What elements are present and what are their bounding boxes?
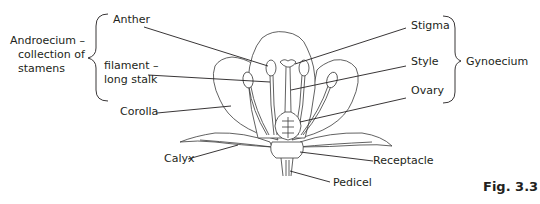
figure-caption: Fig. 3.3 [483, 179, 538, 194]
pedicel [281, 158, 293, 176]
gynoecium-label: Gynoecium [466, 55, 528, 69]
leader-receptacle [300, 152, 373, 161]
ovary-label: Ovary [411, 84, 444, 98]
flower-diagram [0, 0, 540, 204]
anther-label: Anther [113, 13, 150, 27]
filament-label-line2: long stalk [104, 73, 157, 87]
anther-2 [266, 60, 276, 76]
androecium-brace [88, 14, 108, 101]
androecium-label: Androecium – [10, 34, 85, 48]
sepal-right [298, 133, 392, 147]
receptacle-label: Receptacle [373, 154, 434, 168]
androecium-desc-line3: stamens [18, 62, 65, 76]
receptacle [271, 142, 304, 158]
corolla-label: Corolla [120, 105, 158, 119]
androecium-desc-line2: collection of [18, 48, 85, 62]
leader-corolla [157, 106, 231, 113]
filament-label: filament – [104, 59, 159, 73]
leader-pedicel [290, 171, 330, 182]
leader-anther [144, 27, 268, 66]
style-label: Style [411, 55, 439, 69]
calyx-label: Calyx [164, 152, 195, 166]
leader-stigma [295, 28, 406, 64]
leader-calyx [188, 145, 238, 159]
stigma-label: Stigma [411, 19, 450, 33]
pedicel-label: Pedicel [333, 176, 372, 190]
